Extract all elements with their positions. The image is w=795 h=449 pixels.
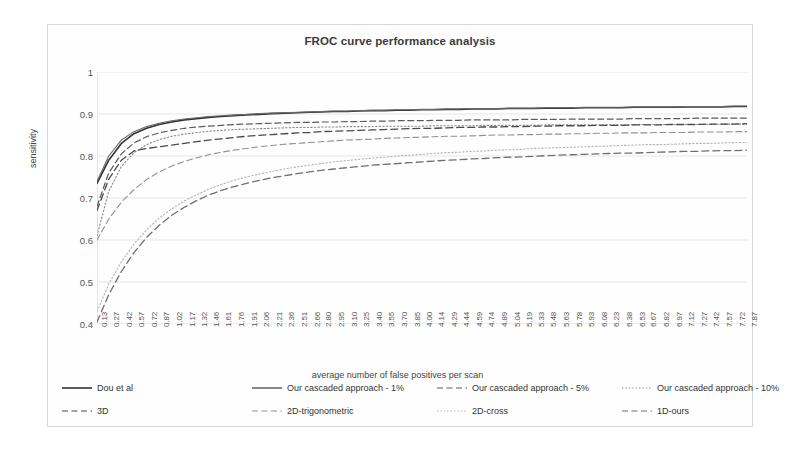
x-axis-tick: 6.97 [675, 312, 684, 327]
x-axis-tick: 5.78 [575, 312, 584, 327]
legend-label: 2D-cross [472, 407, 508, 416]
x-axis-tick: 6.67 [649, 312, 658, 327]
x-axis-tick: 0.27 [112, 312, 121, 327]
series-line [97, 150, 747, 322]
y-axis-tick: 0.7 [59, 193, 93, 204]
x-axis-title: average number of false positives per sc… [0, 370, 795, 380]
x-axis-tick: 4.74 [487, 312, 496, 327]
x-axis-tick: 6.08 [600, 312, 609, 327]
x-axis-tick: 1.76 [237, 312, 246, 327]
x-axis-tick: 6.23 [612, 312, 621, 327]
legend-label: Our cascaded approach - 1% [287, 384, 404, 393]
x-axis-tick: 7.72 [738, 312, 747, 327]
x-axis-tick: 5.93 [587, 312, 596, 327]
x-axis-tick: 0.57 [137, 312, 146, 327]
series-line [97, 132, 747, 240]
chart-legend: Dou et alOur cascaded approach - 1%Our c… [62, 383, 742, 429]
x-axis-tick: 3.70 [400, 312, 409, 327]
x-axis-tick: 4.44 [462, 312, 471, 327]
x-axis-tick: 1.46 [212, 312, 221, 327]
x-axis-tick: 5.33 [537, 312, 546, 327]
x-axis-tick: 6.82 [662, 312, 671, 327]
legend-swatch-icon [252, 383, 282, 393]
x-axis-tick: 1.61 [224, 312, 233, 327]
x-axis-tick: 2.51 [300, 312, 309, 327]
x-axis-tick: 7.27 [700, 312, 709, 327]
x-axis-tick: 5.48 [549, 312, 558, 327]
x-axis-tick: 2.80 [324, 312, 333, 327]
series-line [97, 124, 747, 211]
x-axis-tick: 6.38 [625, 312, 634, 327]
x-axis-tick: 1.02 [175, 312, 184, 327]
legend-swatch-icon [622, 383, 652, 393]
legend-label: Dou et al [97, 384, 133, 393]
x-axis-tick: 3.85 [413, 312, 422, 327]
legend-item[interactable]: 1D-ours [622, 406, 689, 416]
legend-swatch-icon [62, 383, 92, 393]
x-axis-tick: 2.36 [287, 312, 296, 327]
legend-label: Our cascaded approach - 5% [472, 384, 589, 393]
legend-label: Our cascaded approach - 10% [657, 384, 779, 393]
legend-swatch-icon [622, 406, 652, 416]
legend-label: 3D [97, 407, 109, 416]
series-line [97, 106, 747, 181]
x-axis-tick: 4.14 [437, 312, 446, 327]
x-axis-tick: 3.25 [362, 312, 371, 327]
y-axis-tick: 0.4 [59, 319, 93, 330]
x-axis-tick: 0.42 [125, 312, 134, 327]
legend-item[interactable]: Our cascaded approach - 5% [437, 383, 589, 393]
x-axis-tick: 3.55 [387, 312, 396, 327]
x-axis-tick: 1.32 [200, 312, 209, 327]
y-axis-tick-labels: 10.90.80.70.60.50.4 [55, 72, 93, 324]
series-line [97, 124, 747, 236]
x-axis-tick: 1.17 [188, 312, 197, 327]
legend-swatch-icon [437, 406, 467, 416]
y-axis-tick: 0.8 [59, 151, 93, 162]
legend-item[interactable]: 2D-trigonometric [252, 406, 354, 416]
x-axis-tick: 0.87 [162, 312, 171, 327]
y-axis-tick: 0.6 [59, 235, 93, 246]
legend-item[interactable]: Dou et al [62, 383, 133, 393]
y-axis-tick: 0.9 [59, 109, 93, 120]
y-axis-tick: 0.5 [59, 277, 93, 288]
legend-item[interactable]: Our cascaded approach - 10% [622, 383, 779, 393]
x-axis-tick: 1.91 [250, 312, 259, 327]
legend-label: 2D-trigonometric [287, 407, 354, 416]
x-axis-tick: 4.59 [475, 312, 484, 327]
x-axis-tick: 6.53 [638, 312, 647, 327]
x-axis-tick: 3.10 [350, 312, 359, 327]
chart-title: FROC curve performance analysis [48, 35, 752, 47]
series-line [97, 143, 747, 312]
plot-area [97, 72, 747, 324]
x-axis-tick: 4.00 [425, 312, 434, 327]
legend-item[interactable]: 2D-cross [437, 406, 508, 416]
x-axis-tick: 2.21 [275, 312, 284, 327]
legend-swatch-icon [62, 406, 92, 416]
legend-label: 1D-ours [657, 407, 689, 416]
x-axis-tick: 7.42 [712, 312, 721, 327]
x-axis-tick: 0.13 [100, 312, 109, 327]
x-axis-tick: 2.95 [337, 312, 346, 327]
x-axis-tick: 5.19 [525, 312, 534, 327]
x-axis-tick: 3.40 [375, 312, 384, 327]
x-axis-tick: 7.87 [750, 312, 759, 327]
x-axis-tick: 4.89 [500, 312, 509, 327]
y-axis-title: sensitivity [28, 129, 38, 168]
legend-swatch-icon [252, 406, 282, 416]
x-axis-tick-labels: 0.130.270.420.570.720.871.021.171.321.46… [97, 327, 747, 369]
x-axis-tick: 7.57 [725, 312, 734, 327]
x-axis-tick: 4.29 [450, 312, 459, 327]
legend-item[interactable]: 3D [62, 406, 109, 416]
x-axis-tick: 2.06 [262, 312, 271, 327]
legend-swatch-icon [437, 383, 467, 393]
y-axis-tick: 1 [59, 67, 93, 78]
x-axis-tick: 7.12 [687, 312, 696, 327]
x-axis-tick: 0.72 [150, 312, 159, 327]
x-axis-tick: 2.66 [313, 312, 322, 327]
x-axis-tick: 5.63 [562, 312, 571, 327]
legend-item[interactable]: Our cascaded approach - 1% [252, 383, 404, 393]
froc-curve-plot [97, 72, 747, 324]
x-axis-tick: 5.04 [513, 312, 522, 327]
